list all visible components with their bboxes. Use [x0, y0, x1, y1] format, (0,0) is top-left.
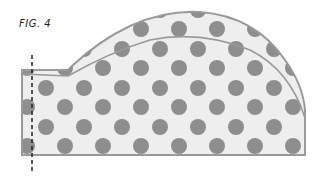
pattern-piece — [19, 2, 320, 155]
pattern-piece-diagram — [0, 0, 325, 177]
